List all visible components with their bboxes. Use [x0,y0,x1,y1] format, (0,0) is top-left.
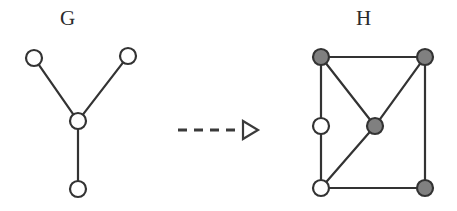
transformation-arrow [178,121,258,139]
graph-g-node [70,181,86,197]
graph-g-edge [38,64,74,116]
graph-h-edge [325,63,370,121]
graph-g [26,48,136,197]
graph-g-node [120,48,136,64]
diagram-canvas [0,0,457,211]
figure-root: G H [0,0,457,211]
graph-h-node [417,49,433,65]
graph-g-node [70,113,86,129]
graph-g-edge [82,62,123,116]
graph-h-edge [379,63,421,121]
graph-h-edge [326,131,371,182]
graph-h-node [313,118,329,134]
graph-h [313,49,433,196]
graph-h-node [313,180,329,196]
graph-g-node [26,50,42,66]
graph-h-node [417,180,433,196]
arrow-head-icon [243,121,258,139]
graph-h-node [313,49,329,65]
graph-h-node [367,118,383,134]
